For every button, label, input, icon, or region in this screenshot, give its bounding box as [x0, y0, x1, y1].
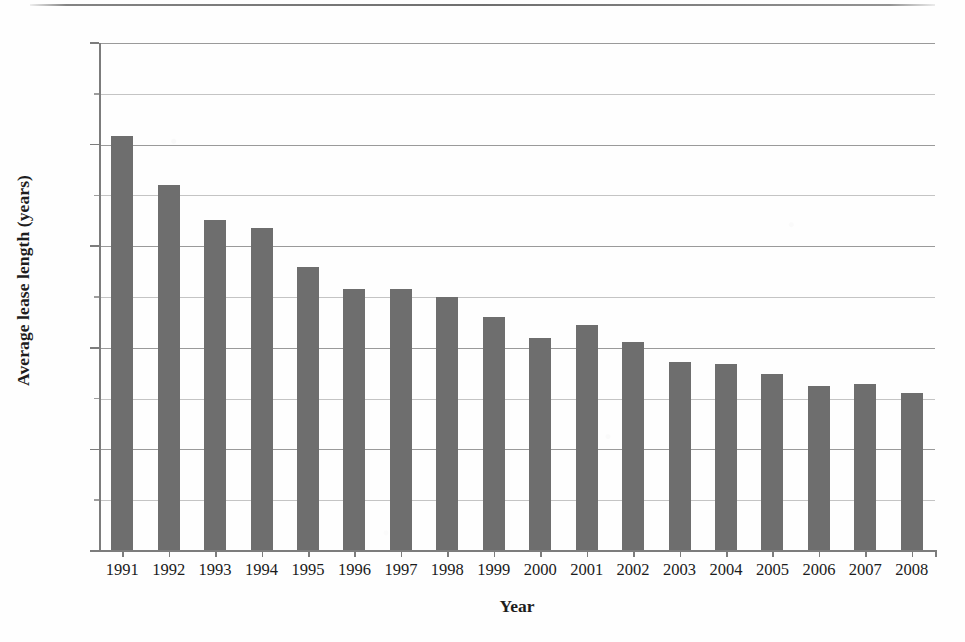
bar [529, 338, 551, 551]
bar [343, 289, 365, 551]
x-axis-tick-label: 1994 [245, 560, 278, 580]
y-axis-tick [90, 144, 99, 146]
x-axis-tick [819, 550, 821, 557]
x-axis-tick-label: 2007 [849, 560, 882, 580]
x-axis-tick-label: 1991 [106, 560, 139, 580]
bar [901, 393, 923, 551]
x-axis-tick-label: 2002 [617, 560, 650, 580]
y-axis-line [99, 43, 101, 552]
x-axis-tick-label: 2004 [710, 560, 743, 580]
bar [390, 289, 412, 551]
bar [111, 136, 133, 551]
y-axis-tick [90, 245, 99, 247]
x-axis-tick-label: 2008 [895, 560, 928, 580]
gridline-major [99, 145, 935, 146]
bar [715, 364, 737, 551]
x-axis-tick [865, 550, 867, 557]
plot-area: 2520151050 [99, 43, 935, 551]
y-axis-tick [90, 550, 99, 552]
x-axis-tick [540, 550, 542, 557]
y-axis-tick [90, 347, 99, 349]
bar [297, 267, 319, 551]
x-axis-tick [308, 550, 310, 557]
x-axis-tick-label: 1992 [152, 560, 185, 580]
bar [808, 386, 830, 551]
x-axis-tick [401, 550, 403, 557]
x-axis-tick [912, 550, 914, 557]
bar [854, 384, 876, 551]
bar [622, 342, 644, 551]
y-axis-tick [90, 449, 99, 451]
x-axis-tick [633, 550, 635, 557]
x-axis-tick-label: 1999 [477, 560, 510, 580]
y-axis-tick [90, 42, 99, 44]
x-axis-tick [169, 550, 171, 557]
gridline-minor [99, 94, 935, 95]
x-axis-tick [772, 550, 774, 557]
x-axis-tick [215, 550, 217, 557]
x-axis-tick-label: 2001 [570, 560, 603, 580]
chart-page: Average lease length (years) 2520151050 … [0, 0, 965, 642]
y-axis-title: Average lease length (years) [0, 0, 46, 560]
bar [761, 374, 783, 551]
x-axis-tick [680, 550, 682, 557]
x-axis-tick-label: 1996 [338, 560, 371, 580]
y-axis-title-text: Average lease length (years) [13, 175, 34, 386]
x-axis-tick [935, 550, 937, 557]
x-axis-line [99, 550, 935, 552]
bar [251, 228, 273, 551]
gridline-minor [99, 195, 935, 196]
x-axis-tick-label: 1995 [292, 560, 325, 580]
x-axis-tick-label: 1998 [431, 560, 464, 580]
x-axis-title: Year [99, 596, 935, 617]
x-axis-tick [587, 550, 589, 557]
x-axis-tick [122, 550, 124, 557]
bar [204, 220, 226, 551]
gridline-major [99, 43, 935, 44]
page-rule-divider [30, 4, 935, 6]
x-axis-tick-label: 1993 [199, 560, 232, 580]
bar [576, 325, 598, 551]
x-axis-tick [726, 550, 728, 557]
bar [158, 185, 180, 551]
bar [436, 297, 458, 551]
x-axis-tick [354, 550, 356, 557]
bar [669, 362, 691, 551]
x-axis-tick [447, 550, 449, 557]
x-axis-tick-label: 1997 [384, 560, 417, 580]
bar [483, 317, 505, 551]
x-axis-tick-label: 2003 [663, 560, 696, 580]
x-axis-tick-label: 2005 [756, 560, 789, 580]
x-axis-tick [494, 550, 496, 557]
x-axis-tick-label: 2006 [802, 560, 835, 580]
x-axis-tick-label: 2000 [524, 560, 557, 580]
x-axis-tick [262, 550, 264, 557]
